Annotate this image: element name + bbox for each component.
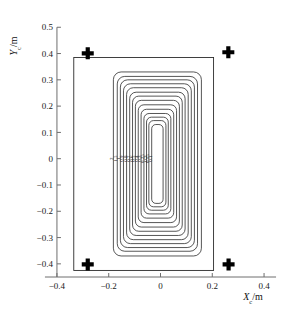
x-tick-label: 0.4 <box>258 281 270 291</box>
cross-marker <box>223 258 235 270</box>
y-tick-label: 0.2 <box>42 101 53 111</box>
x-tick-label: −0.4 <box>49 281 66 291</box>
y-tick-label: 0.3 <box>42 75 54 85</box>
y-tick-label: 0.5 <box>42 22 54 32</box>
x-tick-label: 0.2 <box>207 281 218 291</box>
y-tick-label: 0.1 <box>42 128 53 138</box>
contour-line <box>127 88 189 240</box>
y-tick-label: −0.2 <box>37 206 53 216</box>
x-axis-title: Xc/m <box>242 291 263 305</box>
y-tick-label: −0.1 <box>37 180 53 190</box>
y-tick-label: 0 <box>48 154 53 164</box>
y-axis-title: Yc/m <box>8 36 22 55</box>
plot-canvas: −0.4−0.200.20.4−0.4−0.3−0.2−0.100.10.20.… <box>0 0 296 309</box>
contour-line <box>123 84 191 244</box>
y-tick-label: 0.4 <box>42 49 54 59</box>
svg-text:Yc/m: Yc/m <box>8 36 22 55</box>
contour-labels: 21.510.90.80.70.60.50.40.30.250.20.150.1 <box>109 154 152 163</box>
y-tick-label: −0.4 <box>37 259 54 269</box>
x-tick-label: 0 <box>158 281 163 291</box>
cross-marker <box>222 46 234 58</box>
contour-line <box>152 125 163 204</box>
contour-plot-figure: −0.4−0.200.20.4−0.4−0.3−0.2−0.100.10.20.… <box>0 0 296 309</box>
svg-text:Xc/m: Xc/m <box>242 291 263 305</box>
cross-marker <box>82 258 94 270</box>
x-tick-label: −0.2 <box>101 281 117 291</box>
contour-level-label: 0.1 <box>148 155 153 162</box>
contour-rings <box>113 72 201 256</box>
y-tick-label: −0.3 <box>37 233 54 243</box>
